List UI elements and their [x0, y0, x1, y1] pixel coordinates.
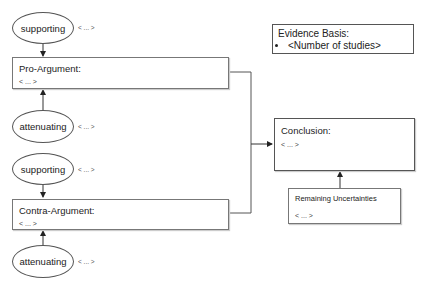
pro-argument-placeholder: < ... > — [19, 78, 37, 85]
contra-supporting-note: < ... > — [78, 166, 95, 173]
conclusion-box: Conclusion: < ... > — [274, 118, 415, 171]
pro-attenuating-node: attenuating — [12, 110, 74, 143]
pro-supporting-note: < ... > — [78, 24, 95, 31]
remaining-uncertainties-placeholder: < ... > — [295, 212, 313, 219]
contra-supporting-label: supporting — [21, 164, 65, 175]
pro-supporting-label: supporting — [21, 23, 65, 34]
evidence-basis-title: Evidence Basis: — [278, 28, 408, 40]
pro-argument-box: Pro-Argument: < ... > — [12, 57, 229, 89]
contra-supporting-node: supporting — [12, 153, 74, 185]
evidence-item: <Number of studies> — [288, 40, 408, 52]
pro-attenuating-note: < ... > — [78, 123, 95, 130]
contra-attenuating-note: < ... > — [78, 258, 95, 265]
contra-attenuating-node: attenuating — [12, 245, 74, 278]
conclusion-placeholder: < ... > — [281, 141, 299, 148]
pro-attenuating-label: attenuating — [19, 121, 66, 132]
evidence-basis-box: Evidence Basis: <Number of studies> — [272, 24, 414, 54]
contra-argument-title: Contra-Argument: — [19, 205, 95, 216]
contra-argument-box: Contra-Argument: < ... > — [12, 199, 229, 230]
contra-attenuating-label: attenuating — [19, 256, 66, 267]
pro-supporting-node: supporting — [12, 12, 74, 44]
remaining-uncertainties-box: Remaining Uncertainties < ... > — [288, 188, 401, 224]
conclusion-title: Conclusion: — [281, 125, 331, 136]
remaining-uncertainties-title: Remaining Uncertainties — [295, 194, 377, 203]
pro-argument-title: Pro-Argument: — [19, 63, 81, 74]
contra-argument-placeholder: < ... > — [19, 220, 37, 227]
